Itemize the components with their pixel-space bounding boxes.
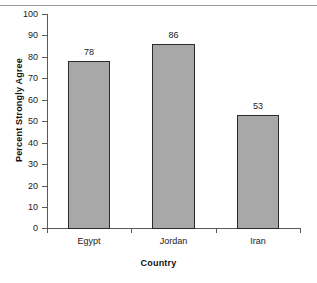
y-axis-tick: [42, 121, 47, 122]
y-axis-tick-label: 60: [28, 96, 38, 105]
y-axis-tick: [42, 186, 47, 187]
bar-chart: 100 90 80 70 60 50 40 30 20 10 0 78 86: [0, 0, 317, 283]
y-axis-tick: [42, 78, 47, 79]
bar-value-iran: 53: [237, 102, 279, 111]
bar-iran: [237, 115, 279, 229]
y-axis-tick-label: 70: [28, 74, 38, 83]
y-axis-tick-label: 90: [28, 31, 38, 40]
x-axis-category-label-jordan: Jordan: [131, 236, 216, 246]
x-axis-title: Country: [0, 258, 317, 268]
chart-screenshot: 100 90 80 70 60 50 40 30 20 10 0 78 86: [0, 0, 317, 283]
y-axis-tick-label: 100: [23, 10, 38, 19]
x-axis-category-label-iran: Iran: [216, 236, 300, 246]
y-axis-tick-label: 20: [28, 182, 38, 191]
y-axis-tick-label: 40: [28, 139, 38, 148]
y-axis-tick-label: 50: [28, 117, 38, 126]
bar-egypt: [68, 61, 110, 229]
y-axis-tick: [42, 143, 47, 144]
bar-value-egypt: 78: [68, 48, 110, 57]
y-axis-tick: [42, 14, 47, 15]
y-axis-tick-label: 0: [33, 224, 38, 233]
x-axis-category-label-egypt: Egypt: [47, 236, 131, 246]
bar-jordan: [152, 44, 195, 229]
x-axis-tick: [300, 229, 301, 233]
bar-value-jordan: 86: [152, 31, 195, 40]
y-axis-tick-label: 80: [28, 53, 38, 62]
y-axis-tick: [42, 35, 47, 36]
y-axis-line: [47, 14, 48, 229]
y-axis-title: Percent Strongly Agree: [14, 30, 24, 190]
x-axis-tick: [216, 229, 217, 233]
y-axis-tick: [42, 207, 47, 208]
y-axis-tick: [42, 164, 47, 165]
x-axis-tick: [131, 229, 132, 233]
y-axis-tick: [42, 57, 47, 58]
x-axis-tick: [47, 229, 48, 233]
y-axis-tick-label: 10: [28, 203, 38, 212]
y-axis-tick-label: 30: [28, 160, 38, 169]
y-axis-tick: [42, 100, 47, 101]
